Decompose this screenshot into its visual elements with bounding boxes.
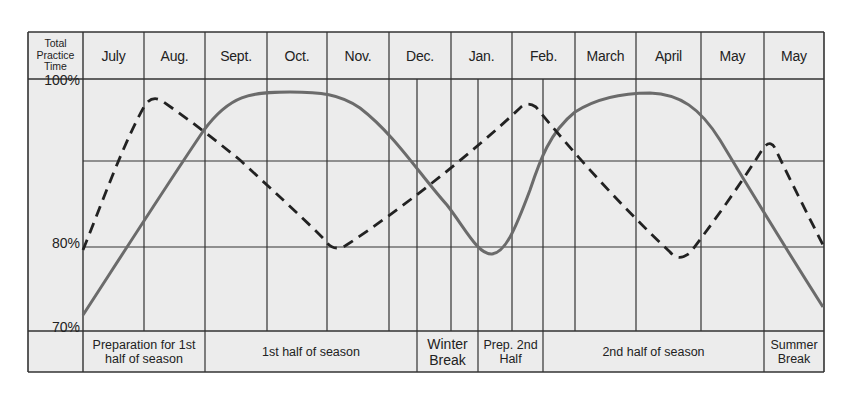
phase-label: 1st half of season (207, 331, 415, 372)
month-header: Oct. (267, 32, 327, 79)
phase-label: Prep. 2nd Half (480, 331, 541, 372)
month-header: Nov. (327, 32, 389, 79)
month-header: Feb. (512, 32, 575, 79)
phase-label: 2nd half of season (545, 331, 762, 372)
month-header: April (636, 32, 701, 79)
phase-label: Winter Break (419, 331, 476, 372)
month-header: Aug. (144, 32, 205, 79)
y-tick-label: 70% (28, 319, 80, 335)
month-header: Sept. (205, 32, 267, 79)
month-header: July (83, 32, 144, 79)
month-header: March (575, 32, 636, 79)
phase-label: Preparation for 1st half of season (85, 331, 203, 372)
y-tick-label: 100% (28, 72, 80, 88)
month-header: Dec. (389, 32, 451, 79)
phase-label: Summer Break (766, 331, 822, 372)
chart-background (28, 32, 824, 372)
month-header: Jan. (451, 32, 512, 79)
y-tick-label: 80% (28, 235, 80, 251)
month-header: May (764, 32, 824, 79)
month-header: May (701, 32, 764, 79)
